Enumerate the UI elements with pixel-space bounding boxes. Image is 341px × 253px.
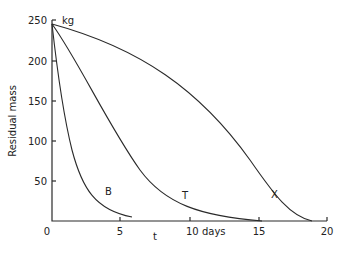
- label-X: X: [271, 189, 278, 200]
- x-tick-10: 10 days: [186, 226, 226, 237]
- y-tick-200: 200: [28, 56, 47, 67]
- y-tick-150: 150: [28, 96, 47, 107]
- residual-mass-chart: 250 200 150 100 50 kg 0 5 10 days 15 20 …: [0, 0, 341, 253]
- x-tick-15: 15: [253, 226, 266, 237]
- x-tick-0: 0: [44, 226, 50, 237]
- y-tick-250: 250: [28, 15, 47, 26]
- label-B: B: [105, 186, 112, 197]
- y-tick-50: 50: [34, 176, 47, 187]
- x-tick-20: 20: [321, 226, 334, 237]
- y-unit: kg: [62, 15, 74, 26]
- axes: [52, 20, 327, 221]
- y-tick-100: 100: [28, 136, 47, 147]
- x-axis-title: t: [153, 231, 157, 242]
- label-T: T: [181, 190, 189, 201]
- x-tick-5: 5: [117, 226, 123, 237]
- y-axis-title: Residual mass: [7, 85, 18, 157]
- curve-B: [52, 24, 132, 217]
- curve-T: [52, 24, 262, 221]
